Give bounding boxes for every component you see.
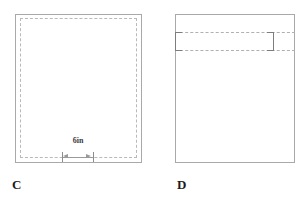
figure-d-dashed-line-top xyxy=(175,32,295,33)
figure-c: 6in C xyxy=(0,0,154,200)
figure-c-dimension-callout: 6in xyxy=(60,136,96,162)
figure-c-dimension-arrow-left-icon xyxy=(63,154,68,158)
figure-c-caption: C xyxy=(12,178,21,192)
figure-c-dimension-arrow-right-icon xyxy=(86,154,91,158)
figure-d-bracket-left xyxy=(175,32,182,51)
figure-c-dimension-tick-right xyxy=(93,152,94,162)
figure-d-bracket-right xyxy=(267,32,274,51)
figure-d-dashed-line-bottom xyxy=(175,50,295,51)
figure-d: D xyxy=(154,0,308,200)
figure-c-dimension-label: 6in xyxy=(60,136,96,146)
figure-canvas: 6in C D xyxy=(0,0,308,200)
figure-d-caption: D xyxy=(177,178,186,192)
figure-d-outer-rectangle xyxy=(175,14,295,163)
